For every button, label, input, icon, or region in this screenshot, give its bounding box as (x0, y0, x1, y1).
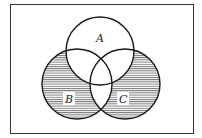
label-c: C (119, 93, 128, 106)
venn-diagram: A B C (0, 0, 202, 138)
label-b: B (64, 93, 73, 106)
label-a: A (95, 32, 104, 45)
region-c-only-shading (0, 0, 202, 138)
